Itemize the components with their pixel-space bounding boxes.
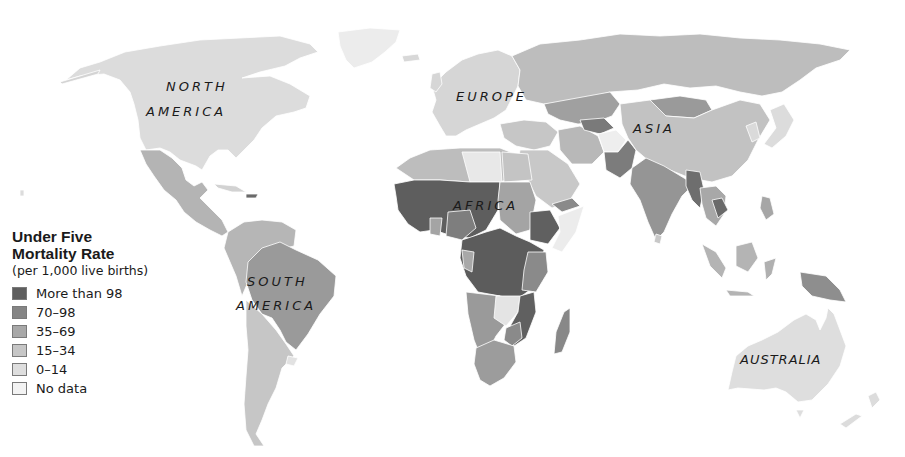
madagascar xyxy=(554,308,570,354)
legend-label: 0–14 xyxy=(36,362,67,377)
label-asia: ASIA xyxy=(633,121,675,136)
egypt xyxy=(502,152,532,182)
legend-label: 70–98 xyxy=(36,305,76,320)
ethiopia xyxy=(530,210,560,244)
legend-swatch xyxy=(12,306,27,319)
legend-swatch xyxy=(12,363,27,376)
philippines xyxy=(760,196,774,220)
legend-item: 70–98 xyxy=(12,303,148,321)
new-zealand xyxy=(840,392,880,428)
legend-label: 35–69 xyxy=(36,324,76,339)
cuba xyxy=(214,184,246,192)
label-south-america-2: AMERICA xyxy=(236,298,316,313)
label-europe: EUROPE xyxy=(456,89,527,104)
japan xyxy=(764,104,794,148)
legend-label: No data xyxy=(36,381,87,396)
turkey-middle-east xyxy=(500,120,558,150)
ghana xyxy=(430,218,442,236)
legend-title-line2: Mortality Rate xyxy=(12,245,148,262)
legend-swatch xyxy=(12,325,27,338)
russia xyxy=(512,34,850,104)
legend-item: 15–34 xyxy=(12,341,148,359)
legend-label: 15–34 xyxy=(36,343,76,358)
north-america xyxy=(66,36,318,170)
sulawesi xyxy=(764,258,776,280)
haiti xyxy=(246,194,258,198)
borneo xyxy=(736,242,758,272)
label-north-america-1: NORTH xyxy=(166,79,228,94)
uruguay xyxy=(286,356,298,366)
legend-title-line1: Under Five xyxy=(12,228,148,245)
legend-item: No data xyxy=(12,379,148,397)
map-legend: Under Five Mortality Rate (per 1,000 liv… xyxy=(12,228,148,398)
java xyxy=(726,290,754,296)
greenland xyxy=(338,28,400,68)
legend-item: 35–69 xyxy=(12,322,148,340)
label-africa: AFRICA xyxy=(453,198,518,213)
legend-subtitle: (per 1,000 live births) xyxy=(12,263,148,278)
mexico-central-america xyxy=(140,150,228,236)
legend-swatch xyxy=(12,344,27,357)
legend-item: 0–14 xyxy=(12,360,148,378)
legend-item: More than 98 xyxy=(12,284,148,302)
sumatra xyxy=(702,244,726,278)
label-south-america-1: SOUTH xyxy=(247,274,308,289)
legend-swatch xyxy=(12,382,27,395)
iceland xyxy=(402,54,420,62)
hawaii xyxy=(20,190,24,196)
legend-label: More than 98 xyxy=(36,286,123,301)
legend-swatch xyxy=(12,287,27,300)
label-north-america-2: AMERICA xyxy=(146,104,226,119)
south-africa xyxy=(474,340,516,386)
tasmania xyxy=(796,410,804,418)
new-guinea xyxy=(800,272,846,302)
label-australia: AUSTRALIA xyxy=(740,352,822,367)
